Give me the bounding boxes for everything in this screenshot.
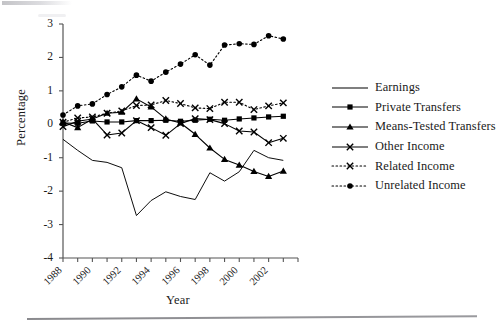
data-point-circle [90,101,96,107]
series-line [63,101,283,123]
data-point-circle [119,84,125,90]
legend-label: Other Income [375,140,445,153]
data-point-x [148,124,154,130]
legend-item-unrelated-income: Unrelated Income [330,176,480,196]
data-point-circle [75,103,81,109]
data-point-triangle [221,156,228,162]
y-tick-label: -4 [31,252,53,264]
data-point-square [119,119,124,124]
data-point-circle [60,112,66,118]
series-earnings [63,139,283,215]
data-point-circle [251,42,257,48]
legend-label: Private Transfers [375,101,461,114]
legend-swatch-x-icon [330,140,370,154]
y-tick-label: 3 [31,18,53,30]
y-tick-label: -2 [31,185,53,197]
data-point-square [266,114,271,119]
data-point-x [177,100,183,106]
data-point-circle [281,36,287,42]
data-point-circle [178,61,184,67]
data-point-x [265,103,271,109]
legend-item-other-income: Other Income [330,137,480,157]
y-tick-label: -3 [31,219,53,231]
legend-swatch-none-icon [330,81,370,95]
data-point-circle [104,92,110,98]
legend-swatch-x-icon [330,159,370,173]
data-point-square [347,105,352,110]
data-point-circle [266,33,272,39]
data-point-circle [222,42,228,48]
legend-item-related-income: Related Income [330,156,480,176]
data-point-x [280,135,286,141]
legend-item-private-transfers: Private Transfers [330,98,480,118]
legend-label: Unrelated Income [375,179,466,192]
data-point-circle [134,72,140,78]
y-tick-label: 0 [31,118,53,130]
data-point-triangle [133,95,140,101]
data-point-square [149,118,154,123]
series-line [63,119,283,143]
y-tick-label: -1 [31,152,53,164]
series-unrelated-income [60,33,286,118]
data-point-circle [148,78,154,84]
legend-swatch-triangle-icon [330,120,370,134]
y-tick-label: 2 [31,51,53,63]
legend-swatch-circle-icon [330,179,370,193]
data-point-x [192,105,198,111]
series-line [63,139,283,215]
series-line [63,99,283,177]
x-axis-title: Year [118,293,238,308]
data-point-square [237,116,242,121]
data-point-circle [207,62,213,68]
data-point-circle [236,41,242,47]
series-line [63,36,283,115]
data-point-x [163,132,169,138]
data-point-square [251,115,256,120]
legend-label: Means-Tested Transfers [375,120,496,133]
legend-swatch-square-icon [330,100,370,114]
chart-legend: EarningsPrivate TransfersMeans-Tested Tr… [330,78,480,196]
legend-label: Earnings [375,81,420,94]
y-axis-title: Percentage [14,73,29,163]
data-point-circle [192,52,198,58]
legend-item-means-tested-transfers: Means-Tested Transfers [330,117,480,137]
data-point-square [281,114,286,119]
legend-label: Related Income [375,160,455,173]
data-point-x [236,99,242,105]
data-point-triangle [192,131,199,137]
data-point-triangle [280,167,287,173]
data-point-square [104,119,109,124]
legend-item-earnings: Earnings [330,78,480,98]
y-tick-label: 1 [31,85,53,97]
data-point-circle [347,183,353,189]
data-point-circle [163,69,169,75]
data-point-x [265,139,271,145]
